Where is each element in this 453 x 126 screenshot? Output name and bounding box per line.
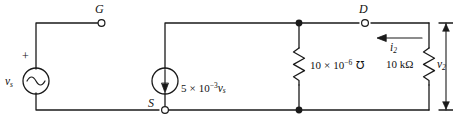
cond-coefficient: 10 (310, 59, 321, 71)
dependent-source-value-label: 5×10−3vs (181, 82, 226, 95)
drain-terminal-circle (362, 20, 369, 27)
gate-node-label: G (95, 3, 104, 15)
dep-coefficient: 5 (181, 82, 187, 94)
circuit-diagram: G D S + vs 5×10−3vs 10×10−6℧ 10 kΩ i2 v2 (0, 0, 453, 126)
cond-times-symbol: × (324, 59, 330, 71)
dep-exponent: −3 (210, 81, 218, 90)
current-arrow-head (162, 83, 169, 92)
cond-base: 10 (333, 59, 344, 71)
vs-label-subscript: s (10, 80, 13, 89)
i2-arrow-head (377, 35, 386, 42)
dep-times-symbol: × (190, 82, 196, 94)
v2-voltage-label: v2 (437, 59, 446, 71)
junction-dot-bottom (296, 107, 303, 114)
load-resistor-zigzag (424, 48, 435, 85)
dep-base: 10 (199, 82, 210, 94)
v2-top-arrowhead (443, 24, 449, 31)
source-node-label: S (148, 97, 154, 109)
vs-source-label: vs (5, 76, 13, 88)
junction-dot-top (296, 20, 303, 27)
vs-polarity-plus: + (22, 50, 29, 62)
conductance-value-label: 10×10−6℧ (310, 59, 364, 71)
v2-bottom-arrowhead (443, 102, 449, 109)
load-resistor-value-label: 10 kΩ (386, 59, 413, 70)
gate-terminal-circle (98, 20, 105, 27)
conductance-zigzag (294, 48, 305, 85)
drain-node-label: D (359, 3, 368, 15)
dep-controlling-subscript: s (223, 86, 226, 95)
cond-exponent: −6 (344, 58, 352, 67)
source-terminal-circle (162, 107, 169, 114)
wire-vs-to-source-node (36, 93, 159, 110)
wire-dep-source-to-top-rail (165, 23, 299, 69)
i2-current-label: i2 (390, 42, 397, 54)
mho-unit-symbol: ℧ (356, 59, 364, 71)
sine-wave-glyph (27, 77, 45, 85)
v2-label-subscript: 2 (442, 63, 446, 72)
i2-label-subscript: 2 (393, 46, 397, 55)
wire-vs-to-gate (36, 23, 98, 69)
